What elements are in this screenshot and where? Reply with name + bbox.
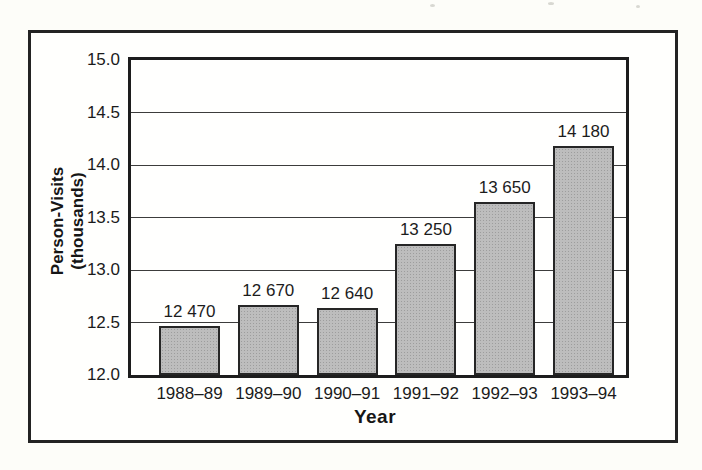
y-tick-label: 15.0 <box>58 50 120 70</box>
plot-area: 12 47012 67012 64013 25013 65014 180 <box>128 57 629 378</box>
y-tick-label: 13.5 <box>58 208 120 228</box>
x-axis-title: Year <box>245 406 505 428</box>
gridline-13.5 <box>131 217 626 218</box>
y-tick-label: 13.0 <box>58 260 120 280</box>
bar-value-label: 13 650 <box>460 178 550 198</box>
bar-1991–92 <box>395 244 456 375</box>
bar-1992–93 <box>474 202 535 375</box>
figure-canvas: Person-Visits (thousands) 12 47012 67012… <box>0 0 702 470</box>
bar-value-label: 12 640 <box>302 284 392 304</box>
gridline-13 <box>131 270 626 271</box>
scan-speck <box>430 4 435 7</box>
bar-1988–89 <box>159 326 220 375</box>
y-tick-label: 14.5 <box>58 103 120 123</box>
bar-value-label: 13 250 <box>381 220 471 240</box>
scan-speck <box>548 2 554 5</box>
bar-1990–91 <box>317 308 378 375</box>
bar-value-label: 14 180 <box>539 122 629 142</box>
y-tick-label: 12.0 <box>58 365 120 385</box>
gridline-14.5 <box>131 112 626 113</box>
scan-speck <box>636 5 640 8</box>
gridline-12.5 <box>131 322 626 323</box>
y-tick-label: 14.0 <box>58 155 120 175</box>
x-tick-label: 1993–94 <box>538 384 630 404</box>
bar-1989–90 <box>238 305 299 375</box>
bar-1993–94 <box>553 146 614 375</box>
bar-value-label: 12 670 <box>223 281 313 301</box>
gridline-14 <box>131 165 626 166</box>
y-tick-label: 12.5 <box>58 313 120 333</box>
plot-inner: 12 47012 67012 64013 25013 65014 180 <box>131 60 626 375</box>
bar-value-label: 12 470 <box>145 302 235 322</box>
